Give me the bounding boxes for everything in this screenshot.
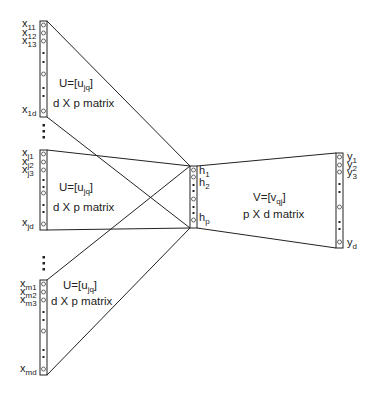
connection-line: [47, 150, 190, 166]
ellipsis-dot: [43, 211, 45, 213]
ellipsis-dot: [193, 184, 195, 186]
ellipsis-dot: [43, 319, 45, 321]
node-label-x13: x13: [22, 35, 36, 46]
group-ellipsis-dot: [43, 262, 46, 265]
weight-matrix-label: U=[ujq]: [63, 278, 97, 292]
matrix-dimension-label: d X p matrix: [53, 96, 114, 110]
group-ellipsis-dot: [43, 130, 46, 133]
node-label-h1: h1: [199, 165, 210, 176]
network-diagram-canvas: [0, 0, 380, 395]
connection-line: [47, 228, 190, 230]
node-label-y3: y3: [347, 167, 357, 178]
node-circle: [338, 240, 342, 244]
node-circle: [42, 152, 46, 156]
ellipsis-dot: [339, 191, 341, 193]
node-circle: [42, 39, 46, 43]
node-circle: [338, 155, 342, 159]
ellipsis-dot: [43, 87, 45, 89]
node-circle: [338, 205, 342, 209]
connection-line: [47, 21, 190, 166]
group-ellipsis-dot: [43, 256, 46, 259]
weight-matrix-label: V=[vqj]: [253, 190, 286, 204]
node-label-x1d: x1d: [22, 104, 36, 115]
weight-matrix-label: U=[ujq]: [59, 180, 93, 194]
group-ellipsis-dot: [43, 124, 46, 127]
ellipsis-dot: [43, 349, 45, 351]
matrix-dimension-label: p X d matrix: [243, 207, 304, 221]
node-circle: [192, 175, 196, 179]
node-circle: [42, 298, 46, 302]
ellipsis-dot: [43, 95, 45, 97]
node-label-xj3: xj3: [22, 164, 34, 175]
connection-line: [197, 228, 336, 248]
node-circle: [42, 109, 46, 113]
node-circle: [338, 163, 342, 167]
ellipsis-dot: [43, 356, 45, 358]
matrix-dimension-label: d X p matrix: [51, 294, 112, 308]
group-ellipsis-dot: [43, 136, 46, 139]
node-circle: [192, 168, 196, 172]
node-label-xmd: xmd: [20, 363, 37, 374]
node-circle: [42, 290, 46, 294]
node-circle: [42, 329, 46, 333]
node-circle: [338, 170, 342, 174]
ellipsis-dot: [43, 61, 45, 63]
ellipsis-dot: [43, 52, 45, 54]
ellipsis-dot: [339, 183, 341, 185]
node-label-hp: hp: [199, 212, 210, 223]
ellipsis-dot: [339, 228, 341, 230]
node-label-yd: yd: [347, 237, 357, 248]
ellipsis-dot: [193, 212, 195, 214]
ellipsis-dot: [193, 190, 195, 192]
node-circle: [42, 23, 46, 27]
node-circle: [42, 191, 46, 195]
node-label-h2: h2: [199, 177, 210, 188]
node-circle: [192, 197, 196, 201]
node-circle: [192, 218, 196, 222]
node-circle: [42, 367, 46, 371]
weight-matrix-label: U=[ujq]: [59, 76, 93, 90]
ellipsis-dot: [339, 221, 341, 223]
ellipsis-dot: [43, 311, 45, 313]
group-ellipsis-dot: [43, 268, 46, 271]
ellipsis-dot: [193, 206, 195, 208]
node-circle: [42, 222, 46, 226]
node-circle: [42, 72, 46, 76]
ellipsis-dot: [43, 204, 45, 206]
ellipsis-dot: [43, 186, 45, 188]
node-label-xm3: xm3: [20, 294, 37, 305]
node-circle: [42, 31, 46, 35]
node-circle: [42, 160, 46, 164]
node-circle: [42, 282, 46, 286]
node-label-xjd: xjd: [22, 217, 34, 228]
connection-line: [197, 153, 336, 166]
node-circle: [42, 168, 46, 172]
ellipsis-dot: [43, 179, 45, 181]
matrix-dimension-label: d X p matrix: [53, 200, 114, 214]
input-layer-box-1: [40, 21, 47, 117]
